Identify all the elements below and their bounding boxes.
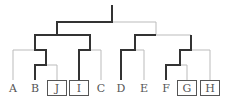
leaf-label-i: I [77, 82, 81, 95]
leaf-labels: A B J I C D E F G H [8, 82, 215, 95]
leaf-label-d: D [117, 82, 126, 95]
leaf-boxes [48, 81, 220, 96]
branch-right-clade [156, 22, 191, 35]
leaf-label-h: H [205, 82, 215, 95]
branch-a [13, 50, 35, 80]
path-to-i [57, 35, 90, 80]
cladogram: A B J I C D E F G H [0, 0, 232, 102]
highlight-branches [35, 5, 191, 80]
branch-g [180, 65, 187, 80]
leaf-label-b: B [31, 82, 39, 95]
path-root-to-b [35, 5, 112, 80]
leaf-label-j: J [54, 82, 59, 95]
branch-e [135, 50, 144, 80]
branch-j [46, 65, 57, 80]
leaf-label-a: A [8, 82, 18, 95]
branch-c [90, 50, 101, 80]
leaf-label-c: C [97, 82, 105, 95]
path-to-d [121, 35, 156, 80]
branch-h [191, 35, 210, 80]
leaf-label-e: E [140, 82, 148, 95]
leaf-label-f: F [162, 82, 170, 95]
leaf-label-g: G [183, 82, 192, 95]
